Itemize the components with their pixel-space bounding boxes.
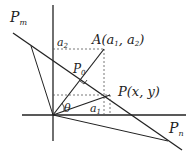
label-pn: Pn <box>168 120 184 138</box>
geometry-diagram: Pm a2 A(a1, a2) P0 P(x, y) θ a1 Pn <box>0 0 195 153</box>
label-pm: Pm <box>9 9 27 27</box>
label-theta: θ <box>64 102 71 115</box>
label-a2: a2 <box>57 36 69 50</box>
label-p: P(x, y) <box>117 84 160 99</box>
label-a1: a1 <box>90 102 101 116</box>
label-a: A(a1, a2) <box>91 32 144 48</box>
segment-o-to-pm-side <box>31 46 53 115</box>
label-p0: P0 <box>72 62 86 77</box>
segment-op <box>53 95 110 115</box>
